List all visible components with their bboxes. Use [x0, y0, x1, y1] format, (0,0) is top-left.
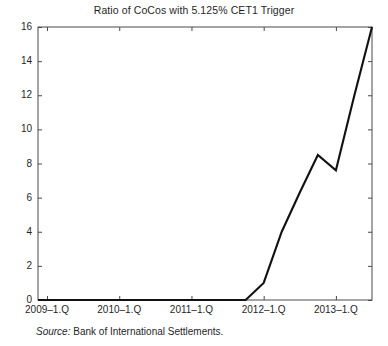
axis-tick-marks	[38, 27, 372, 301]
x-axis-tick-label: 2012–1.Q	[224, 305, 304, 315]
chart-figure: Ratio of CoCos with 5.125% CET1 Trigger …	[0, 0, 388, 346]
y-axis-tick-label: 12	[2, 90, 32, 100]
x-axis-tick-label: 2010–1.Q	[79, 305, 159, 315]
x-axis-tick-label: 2009–1.Q	[7, 305, 87, 315]
chart-plot-area	[0, 0, 388, 346]
y-axis-tick-label: 16	[2, 22, 32, 32]
x-axis-tick-label: 2013–1.Q	[296, 305, 376, 315]
y-axis-tick-label: 6	[2, 193, 32, 203]
source-label: Source:	[36, 326, 70, 337]
x-axis-tick-label: 2011–1.Q	[151, 305, 231, 315]
y-axis-tick-label: 10	[2, 124, 32, 134]
y-axis-tick-label: 8	[2, 159, 32, 169]
axes-frame	[38, 27, 372, 300]
source-note: Source: Bank of International Settlement…	[36, 326, 223, 337]
source-text: Bank of International Settlements.	[73, 326, 223, 337]
data-series-line	[38, 27, 372, 300]
y-axis-tick-label: 2	[2, 261, 32, 271]
y-axis-tick-label: 4	[2, 227, 32, 237]
y-axis-tick-label: 14	[2, 56, 32, 66]
